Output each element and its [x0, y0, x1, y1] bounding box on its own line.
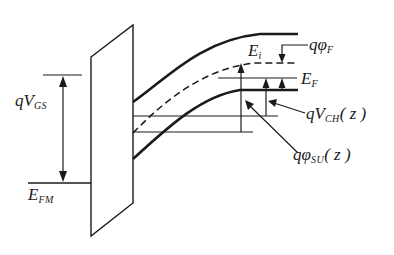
phi-su-leader — [250, 106, 298, 153]
vch-leader — [274, 103, 305, 113]
label-ei: Ei — [248, 42, 262, 59]
phi-f-leader — [282, 45, 308, 56]
vch-leader-arrowhead — [268, 99, 277, 107]
label-ef: EF — [301, 70, 318, 87]
oxide-layer — [91, 25, 133, 236]
label-qphisu: qφSU( z ) — [293, 146, 351, 163]
label-qvgs: qVGS — [15, 92, 47, 109]
vgs-arrowhead-down — [59, 171, 67, 182]
label-efm: EFM — [28, 186, 54, 203]
label-qphif: qφF — [309, 36, 334, 53]
conduction-band — [133, 34, 298, 102]
vgs-arrowhead-up — [59, 76, 67, 87]
ef-arrowhead — [279, 78, 286, 88]
band-diagram — [0, 0, 394, 255]
label-qvch: qVCH( z ) — [306, 105, 366, 122]
phi-f-arrowhead — [279, 54, 286, 63]
vch-arrowhead — [263, 78, 270, 88]
